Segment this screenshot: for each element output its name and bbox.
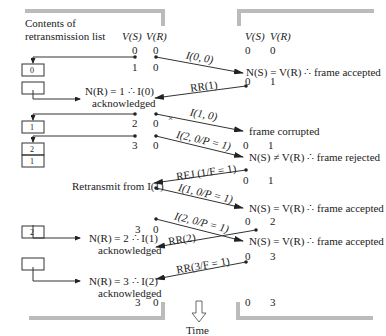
receiver-vs-header: V(S) xyxy=(245,30,265,42)
receiver-note: N(S) = V(R) ∴ frame accepted xyxy=(246,66,381,78)
receiver-vs: 0 xyxy=(243,139,249,151)
sender-vs: 3 xyxy=(132,139,138,151)
list-title-line1: Contents of xyxy=(25,17,76,29)
receiver-vr: 3 xyxy=(270,250,276,262)
sender-vs: 2 xyxy=(132,117,138,129)
receiver-vr-header: V(R) xyxy=(270,30,291,42)
list-entry: 2 xyxy=(30,227,34,239)
sender-note: N(R) = 2 ∴ I(1) xyxy=(89,232,158,244)
sender-vr: 0 xyxy=(153,61,159,73)
list-entry: 1 xyxy=(30,156,34,168)
receiver-vs: 0 xyxy=(243,174,249,186)
receiver-vs: 0 xyxy=(245,296,251,308)
sender-note: N(R) = 1 ∴ I(0) xyxy=(85,85,154,97)
svg-text:×: × xyxy=(168,113,173,123)
sender-vs: 1 xyxy=(132,61,138,73)
sender-note: Retransmit from I(1) xyxy=(72,180,164,192)
receiver-vr: 2 xyxy=(270,215,276,227)
receiver-vr: 0 xyxy=(270,44,276,56)
receiver-vs: 0 xyxy=(245,44,251,56)
receiver-vs: 0 xyxy=(245,215,251,227)
sender-vs-header: V(S) xyxy=(122,30,142,42)
receiver-vr: 1 xyxy=(268,139,274,151)
list-entry: 0 xyxy=(30,65,34,77)
sender-vr: 0 xyxy=(153,117,159,129)
sender-vs: 0 xyxy=(132,44,138,56)
receiver-note: frame corrupted xyxy=(249,125,320,137)
receiver-vr: 3 xyxy=(270,296,276,308)
sender-note: acknowledged xyxy=(92,97,156,109)
time-label: Time xyxy=(186,324,209,336)
receiver-vr: 1 xyxy=(268,174,274,186)
sender-vr: 0 xyxy=(153,44,159,56)
list-entry: 2 xyxy=(30,144,34,156)
sender-note: N(R) = 3 ∴ I(2) xyxy=(89,275,158,287)
sender-vr: 0 xyxy=(153,139,159,151)
receiver-note: N(S) = V(R) ∴ frame accepted xyxy=(249,202,384,214)
list-entry: 1 xyxy=(30,122,34,134)
list-title-line2: retransmission list xyxy=(25,30,105,42)
sender-note: acknowledged xyxy=(98,287,162,299)
receiver-note: N(S) = V(R) ∴ frame accepted xyxy=(249,235,384,247)
sender-note: acknowledged xyxy=(98,244,162,256)
receiver-note: N(S) ≠ V(R) ∴ frame rejected xyxy=(249,151,380,163)
receiver-vs: 0 xyxy=(245,250,251,262)
sender-vr-header: V(R) xyxy=(146,30,167,42)
